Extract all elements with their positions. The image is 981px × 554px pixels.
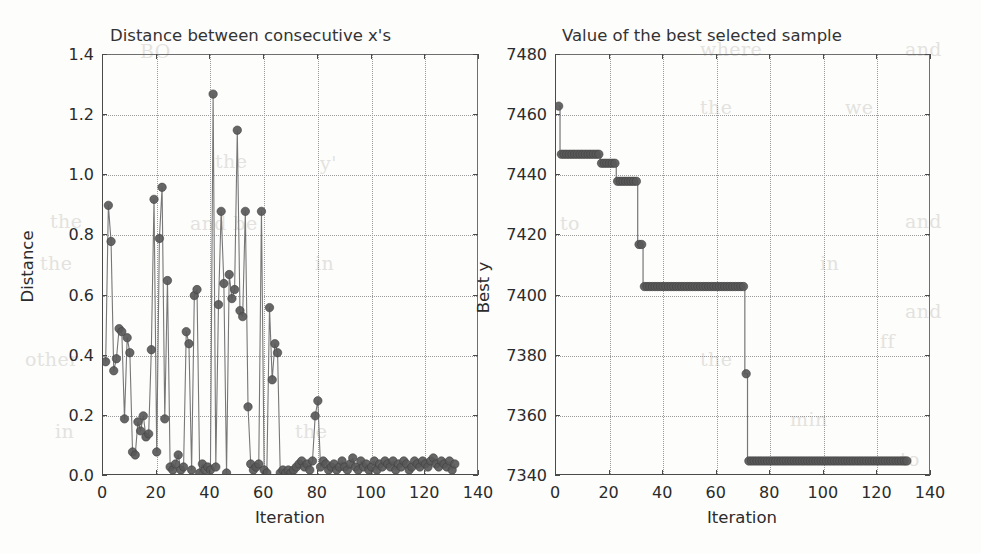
data-point-marker <box>179 463 187 471</box>
data-point-marker <box>268 376 276 384</box>
data-point-marker <box>742 370 750 378</box>
data-point-marker <box>233 126 241 134</box>
x-tickmark <box>716 470 717 475</box>
x-tickmark <box>930 54 931 59</box>
y-tick-label: 7400 <box>491 285 547 304</box>
figure-canvas: BOnwhereandwethethey'theand betoandthein… <box>0 0 981 554</box>
x-tickmark <box>263 470 264 475</box>
data-point-marker <box>595 150 603 158</box>
x-tickmark <box>156 54 157 59</box>
x-tick-label: 60 <box>706 483 726 502</box>
data-point-marker <box>150 195 158 203</box>
y-tick-label: 0.8 <box>64 225 94 244</box>
x-tickmark <box>209 470 210 475</box>
data-point-marker <box>153 448 161 456</box>
data-point-marker <box>131 451 139 459</box>
y-tickmark <box>555 475 560 476</box>
x-tick-label: 0 <box>97 483 107 502</box>
y-tickmark <box>102 114 107 115</box>
data-point-marker <box>222 469 230 475</box>
x-tick-label: 40 <box>652 483 672 502</box>
x-tickmark <box>102 470 103 475</box>
x-tickmark <box>102 54 103 59</box>
data-point-marker <box>265 303 273 311</box>
x-tickmark <box>609 54 610 59</box>
data-point-marker <box>158 183 166 191</box>
data-point-marker <box>112 355 120 363</box>
y-tick-label: 7380 <box>491 345 547 364</box>
data-point-marker <box>308 457 316 465</box>
data-point-marker <box>193 285 201 293</box>
data-point-marker <box>611 159 619 167</box>
data-point-marker <box>161 415 169 423</box>
x-tickmark <box>424 54 425 59</box>
data-point-marker <box>144 430 152 438</box>
data-point-marker <box>185 339 193 347</box>
x-tick-label: 120 <box>861 483 892 502</box>
x-tickmark <box>478 54 479 59</box>
y-tickmark <box>102 355 107 356</box>
y-tick-label: 7480 <box>491 45 547 64</box>
data-point-marker <box>311 412 319 420</box>
data-point-marker <box>230 285 238 293</box>
data-point-marker <box>555 102 563 110</box>
y-tick-label: 7440 <box>491 165 547 184</box>
data-point-marker <box>102 358 110 366</box>
x-tick-label: 20 <box>598 483 618 502</box>
x-tickmark <box>555 54 556 59</box>
y-tickmark <box>102 475 107 476</box>
y-tickmark <box>925 295 930 296</box>
data-point-marker <box>306 466 314 474</box>
x-tick-label: 140 <box>463 483 494 502</box>
y-tickmark <box>555 174 560 175</box>
data-point-marker <box>638 240 646 248</box>
x-tickmark <box>371 470 372 475</box>
y-tickmark <box>555 234 560 235</box>
y-tick-label: 1.4 <box>64 45 94 64</box>
distance-panel-title: Distance between consecutive x's <box>110 26 391 45</box>
data-point-marker <box>182 327 190 335</box>
y-tickmark <box>555 295 560 296</box>
data-point-marker <box>214 300 222 308</box>
data-point-marker <box>139 412 147 420</box>
x-tick-label: 100 <box>355 483 386 502</box>
y-tick-label: 0.4 <box>64 345 94 364</box>
y-tick-label: 0.2 <box>64 405 94 424</box>
data-point-marker <box>244 403 252 411</box>
x-tick-label: 40 <box>199 483 219 502</box>
x-tick-label: 60 <box>253 483 273 502</box>
x-tickmark <box>609 470 610 475</box>
data-point-marker <box>107 237 115 245</box>
x-tickmark <box>555 470 556 475</box>
y-tick-label: 7340 <box>491 466 547 485</box>
y-tickmark <box>473 355 478 356</box>
y-tick-label: 0.6 <box>64 285 94 304</box>
x-tick-label: 100 <box>808 483 839 502</box>
best-value-xaxis-label: Iteration <box>707 508 777 527</box>
y-tickmark <box>473 475 478 476</box>
data-point-marker <box>123 333 131 341</box>
y-tickmark <box>473 174 478 175</box>
distance-yaxis-label: Distance <box>18 230 37 302</box>
x-tickmark <box>769 470 770 475</box>
x-tickmark <box>209 54 210 59</box>
data-point-marker <box>739 282 747 290</box>
data-point-marker <box>217 207 225 215</box>
series-line <box>106 94 455 473</box>
y-tickmark <box>555 114 560 115</box>
y-tickmark <box>925 475 930 476</box>
y-tickmark <box>925 114 930 115</box>
data-point-marker <box>271 339 279 347</box>
y-tickmark <box>555 355 560 356</box>
data-point-marker <box>147 346 155 354</box>
data-point-marker <box>903 457 911 465</box>
x-tickmark <box>662 54 663 59</box>
data-point-marker <box>241 207 249 215</box>
y-tick-label: 1.2 <box>64 105 94 124</box>
x-tick-label: 80 <box>307 483 327 502</box>
x-tickmark <box>823 54 824 59</box>
x-tickmark <box>876 470 877 475</box>
x-tick-label: 0 <box>550 483 560 502</box>
best-value-yaxis-label: Best y <box>474 262 493 314</box>
x-tickmark <box>424 470 425 475</box>
